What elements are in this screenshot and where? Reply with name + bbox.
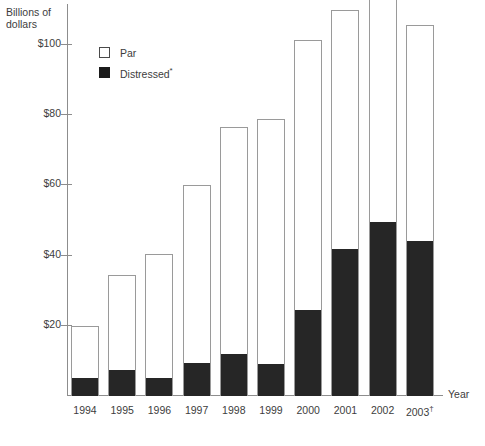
bar-total-1996	[145, 254, 173, 396]
x-axis-tick-label-1997: 1997	[177, 404, 217, 416]
bar-distressed-1994	[72, 378, 98, 396]
bar-group	[71, 1, 99, 396]
x-axis-tick-label-2003: 2003†	[400, 404, 440, 418]
bar-group	[108, 1, 136, 396]
bar-distressed-1999	[258, 364, 284, 396]
bar-total-2002	[369, 0, 397, 396]
bar-distressed-2003	[407, 241, 433, 396]
bar-group	[220, 1, 248, 396]
bar-group	[294, 1, 322, 396]
x-axis-tick-label-1999: 1999	[251, 404, 291, 416]
x-axis-tick-label-1994: 1994	[65, 404, 105, 416]
bar-distressed-1998	[221, 354, 247, 396]
y-axis-tick-label: $80	[5, 107, 61, 119]
x-axis-tick-label-2000: 2000	[288, 404, 328, 416]
bar-chart: Billions of dollars $20$40$60$80$100 Par…	[0, 0, 485, 446]
bar-group	[369, 1, 397, 396]
bar-group	[331, 1, 359, 396]
bar-group	[183, 1, 211, 396]
bar-distressed-2001	[332, 249, 358, 397]
bar-distressed-2002	[370, 222, 396, 396]
bar-total-2001	[331, 10, 359, 396]
bar-total-1994	[71, 326, 99, 396]
y-axis-tick-label: $100	[5, 37, 61, 49]
bar-total-2003	[406, 25, 434, 396]
plot-area: 1994199519961997199819992000200120022003…	[67, 0, 443, 396]
x-axis-tick-label-1996: 1996	[139, 404, 179, 416]
bar-group	[257, 1, 285, 396]
bar-total-1997	[183, 185, 211, 396]
y-axis-tick-label: $60	[5, 177, 61, 189]
bar-group	[145, 1, 173, 396]
y-axis-tick-label: $20	[5, 318, 61, 330]
bar-distressed-1997	[184, 363, 210, 396]
y-axis-title: Billions of dollars	[6, 6, 68, 30]
bar-group	[406, 1, 434, 396]
x-axis-tick-label-2002: 2002	[363, 404, 403, 416]
x-axis-tick-label-2001: 2001	[325, 404, 365, 416]
bar-distressed-2000	[295, 310, 321, 396]
bar-distressed-1996	[146, 378, 172, 396]
y-axis-tick-label: $40	[5, 248, 61, 260]
x-axis-tick-label-1995: 1995	[102, 404, 142, 416]
bar-total-1995	[108, 275, 136, 396]
x-axis-tick-label-1998: 1998	[214, 404, 254, 416]
bar-total-1999	[257, 119, 285, 396]
bar-distressed-1995	[109, 370, 135, 396]
bar-total-1998	[220, 127, 248, 396]
bar-total-2000	[294, 40, 322, 396]
x-axis-title: Year	[448, 388, 469, 400]
